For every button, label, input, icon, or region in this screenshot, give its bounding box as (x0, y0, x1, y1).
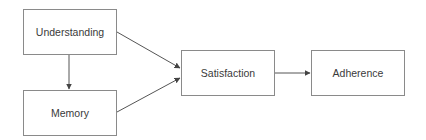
node-satisfaction: Satisfaction (181, 50, 275, 96)
node-label: Understanding (36, 26, 104, 38)
node-label: Memory (51, 107, 89, 119)
node-label: Satisfaction (201, 67, 255, 79)
edge-memory-satisfaction (117, 78, 180, 112)
node-adherence: Adherence (311, 50, 405, 96)
node-understanding: Understanding (23, 9, 117, 55)
node-memory: Memory (23, 90, 117, 136)
edge-understanding-satisfaction (117, 32, 180, 68)
node-label: Adherence (333, 67, 384, 79)
